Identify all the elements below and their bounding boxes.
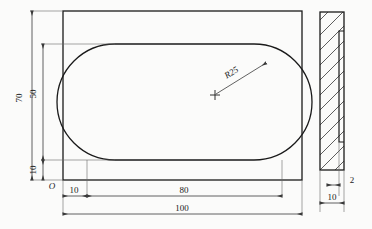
- dim-label-50: 50: [28, 89, 38, 99]
- outer-plate-rectangle: [63, 11, 302, 180]
- vertical-dimensions-group: 70 50 10: [14, 11, 43, 180]
- horizontal-dimensions-group: 10 80 100: [63, 185, 302, 214]
- dim-label-100: 100: [175, 203, 189, 213]
- radius-center-mark: [210, 90, 220, 100]
- dim-label-80: 80: [180, 185, 190, 195]
- dim-label-step-2: 2: [350, 175, 355, 185]
- engineering-drawing-svg: R25 70 50: [0, 0, 372, 229]
- side-section-view-group: 2 10: [300, 0, 356, 229]
- dim-label-10-vertical: 10: [28, 165, 38, 175]
- dim-label-10-horizontal: 10: [70, 185, 80, 195]
- obround-cutout: [57, 44, 312, 160]
- drawing-canvas: R25 70 50: [0, 0, 372, 229]
- extension-lines-group: [30, 11, 302, 214]
- origin-label: O: [49, 181, 56, 191]
- dim-label-70: 70: [14, 93, 24, 103]
- front-view-group: R25: [57, 11, 312, 180]
- dim-label-radius: R25: [222, 64, 241, 81]
- dim-label-thickness-10: 10: [328, 192, 338, 202]
- radius-leader-line: [216, 63, 266, 94]
